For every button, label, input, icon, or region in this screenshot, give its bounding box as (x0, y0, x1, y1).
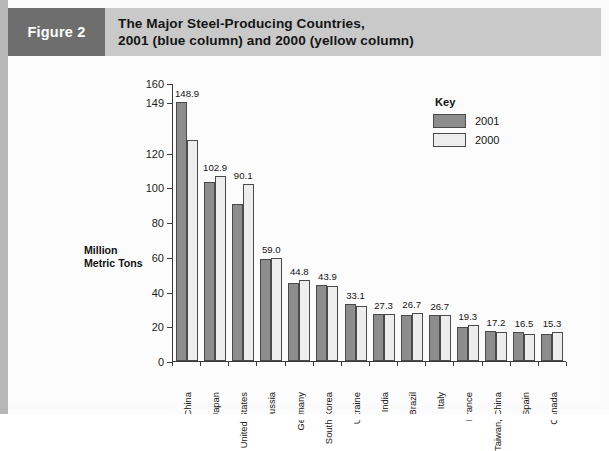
bar-pair: 19.3 (457, 325, 479, 361)
bar-2001[interactable] (457, 327, 468, 361)
bar-value-label: 15.3 (543, 318, 562, 329)
bar-2000[interactable] (552, 332, 563, 361)
y-tick-mark (167, 327, 172, 328)
y-tick-label: 20 (152, 321, 164, 333)
bar-value-label: 33.1 (346, 290, 365, 301)
bar-pair: 33.1 (345, 304, 367, 362)
figure-title: The Major Steel-Producing Countries, 200… (105, 8, 601, 56)
y-tick-mark (167, 103, 172, 104)
y-tick-label: 80 (152, 217, 164, 229)
bar-group: 16.5 (510, 84, 538, 361)
bar-2001[interactable] (204, 182, 215, 361)
bar-2000[interactable] (384, 314, 395, 361)
bar-2001[interactable] (288, 283, 299, 361)
figure-number-tag: Figure 2 (8, 8, 105, 56)
bar-group: 15.3 (538, 84, 566, 361)
bar-value-label: 27.3 (374, 300, 393, 311)
bar-2001[interactable] (176, 102, 187, 361)
y-tick-label: 160 (146, 78, 164, 90)
y-tick-mark (167, 188, 172, 189)
bar-pair: 15.3 (541, 332, 563, 361)
bar-group: 90.1 (229, 84, 257, 361)
bar-2000[interactable] (412, 313, 423, 361)
bar-2001[interactable] (541, 334, 552, 361)
bottom-gutter (0, 414, 609, 420)
figure-title-line-1: The Major Steel-Producing Countries, (118, 15, 601, 33)
x-tick-mark (538, 362, 539, 366)
x-tick-mark (369, 362, 370, 366)
bar-value-label: 26.7 (430, 301, 449, 312)
bar-group: 26.7 (426, 84, 454, 361)
y-tick-label: 0 (158, 356, 164, 368)
bar-pair: 27.3 (373, 314, 395, 361)
bar-value-label: 59.0 (262, 244, 281, 255)
bar-2001[interactable] (401, 315, 412, 361)
bar-2000[interactable] (356, 306, 367, 361)
left-gutter (0, 0, 8, 420)
bar-2001[interactable] (260, 259, 271, 362)
bar-pair: 26.7 (401, 313, 423, 361)
x-tick-mark (228, 362, 229, 366)
bar-value-label: 102.9 (203, 162, 227, 173)
x-tick-mark (566, 362, 567, 366)
bar-2000[interactable] (440, 315, 451, 361)
bar-2000[interactable] (327, 286, 338, 361)
bar-value-label: 19.3 (458, 311, 477, 322)
y-tick-label: 100 (146, 182, 164, 194)
x-tick-mark (200, 362, 201, 366)
bar-pair: 44.8 (288, 280, 310, 361)
x-tick-mark (341, 362, 342, 366)
bar-pair: 102.9 (204, 176, 226, 361)
y-tick-label: 120 (146, 148, 164, 160)
y-tick-label: 60 (152, 252, 164, 264)
bar-2001[interactable] (429, 315, 440, 361)
chart-canvas: Million Metric Tons Key 2001 2000 020406… (8, 56, 601, 404)
plot-area: 020406080100120149160 148.9102.990.159.0… (172, 84, 566, 362)
y-tick-mark (167, 223, 172, 224)
x-tick-mark (172, 362, 173, 366)
bar-2000[interactable] (271, 258, 282, 361)
figure-title-line-2: 2001 (blue column) and 2000 (yellow colu… (118, 32, 601, 50)
bar-2000[interactable] (299, 280, 310, 361)
bar-2000[interactable] (243, 184, 254, 361)
bar-value-label: 26.7 (402, 299, 421, 310)
bar-group: 59.0 (257, 84, 285, 361)
bar-2000[interactable] (524, 334, 535, 361)
bar-value-label: 17.2 (487, 317, 506, 328)
bar-2001[interactable] (485, 331, 496, 361)
bar-group: 26.7 (398, 84, 426, 361)
bar-pair: 17.2 (485, 331, 507, 361)
bar-pair: 90.1 (232, 184, 254, 361)
bar-2001[interactable] (316, 285, 327, 361)
bar-pair: 26.7 (429, 315, 451, 361)
bar-value-label: 148.9 (175, 88, 199, 99)
bar-pair: 148.9 (176, 102, 198, 361)
bar-value-label: 44.8 (290, 266, 309, 277)
bar-2000[interactable] (187, 140, 198, 361)
bar-2000[interactable] (496, 332, 507, 361)
bar-group: 17.2 (482, 84, 510, 361)
bar-2001[interactable] (513, 332, 524, 361)
bar-2001[interactable] (232, 204, 243, 361)
x-tick-mark (397, 362, 398, 366)
y-tick-label: 40 (152, 287, 164, 299)
y-tick-mark (167, 84, 172, 85)
bar-2000[interactable] (215, 176, 226, 361)
y-tick-label: 149 (146, 97, 164, 109)
bar-group: 44.8 (285, 84, 313, 361)
x-tick-mark (425, 362, 426, 366)
bar-group: 27.3 (370, 84, 398, 361)
bar-pair: 43.9 (316, 285, 338, 361)
x-tick-mark (256, 362, 257, 366)
bar-2000[interactable] (468, 325, 479, 361)
x-tick-mark (482, 362, 483, 366)
bar-2001[interactable] (373, 314, 384, 361)
bar-value-label: 43.9 (318, 271, 337, 282)
bar-pair: 59.0 (260, 258, 282, 361)
bar-pair: 16.5 (513, 332, 535, 361)
bar-group: 19.3 (454, 84, 482, 361)
bar-value-label: 16.5 (515, 318, 534, 329)
x-tick-mark (453, 362, 454, 366)
bar-2001[interactable] (345, 304, 356, 362)
